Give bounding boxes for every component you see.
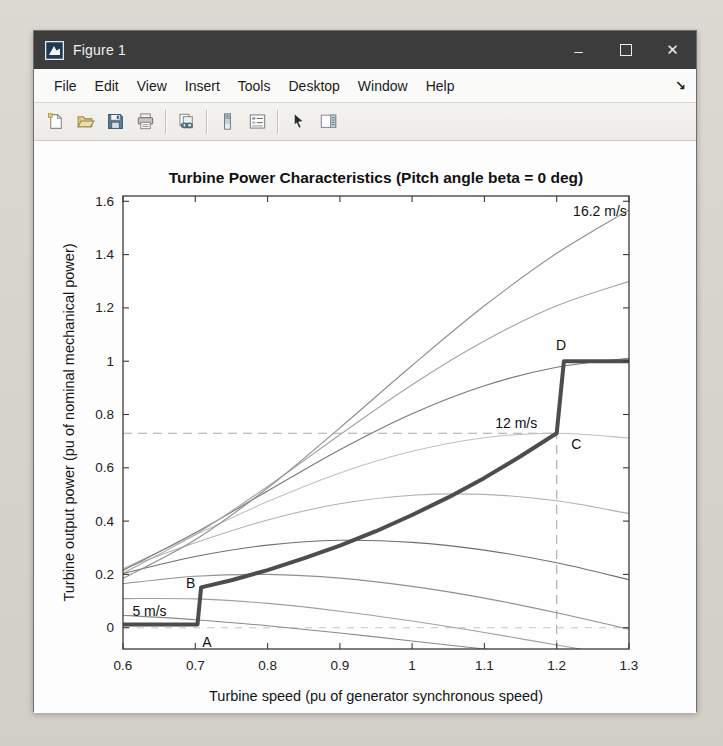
plot-annotation: D (556, 337, 566, 353)
menu-edit[interactable]: Edit (87, 74, 127, 98)
insert-colorbar-icon (218, 112, 237, 131)
x-tick-label: 0.6 (114, 658, 133, 673)
x-tick-label: 0.8 (258, 658, 277, 673)
y-tick-label: 1 (106, 354, 114, 369)
y-tick-label: 0 (106, 620, 114, 635)
y-tick-label: 0.6 (95, 460, 114, 475)
maximize-button[interactable] (602, 31, 649, 69)
toolbar-separator (277, 110, 278, 134)
close-icon: ✕ (666, 41, 679, 59)
toolbar (34, 103, 696, 141)
x-tick-label: 1.3 (620, 658, 639, 673)
print-figure-button[interactable] (131, 108, 159, 136)
titlebar[interactable]: Figure 1 – ✕ (34, 31, 696, 69)
y-tick-label: 0.4 (95, 514, 114, 529)
plot-annotation: C (571, 436, 581, 452)
x-tick-label: 1.1 (475, 658, 494, 673)
x-tick-label: 1 (408, 658, 416, 673)
menu-tools[interactable]: Tools (230, 74, 279, 98)
plot-annotation: A (202, 634, 212, 650)
menu-help[interactable]: Help (418, 74, 463, 98)
y-tick-label: 0.8 (95, 407, 114, 422)
y-tick-label: 1.2 (95, 300, 114, 315)
dock-figure-icon[interactable]: ↘ (675, 78, 686, 93)
plot-annotation: B (186, 575, 195, 591)
plot-title: Turbine Power Characteristics (Pitch ang… (169, 169, 583, 186)
book-page-background: { "window": { "title": "Figure 1", "cont… (0, 0, 723, 746)
close-button[interactable]: ✕ (649, 31, 696, 69)
x-tick-label: 0.7 (186, 658, 205, 673)
show-plot-tools-button[interactable] (314, 108, 342, 136)
save-figure-icon (106, 112, 125, 131)
plot-annotation: 16.2 m/s (573, 203, 627, 219)
edit-plot-icon (289, 112, 308, 131)
x-axis-label: Turbine speed (pu of generator synchrono… (209, 688, 543, 704)
x-tick-label: 0.9 (331, 658, 350, 673)
toolbar-separator (206, 110, 207, 134)
window-controls: – ✕ (555, 31, 696, 69)
y-tick-label: 0.2 (95, 567, 114, 582)
figure-window: Figure 1 – ✕ File Edit View Insert Tools… (33, 30, 697, 712)
menu-insert[interactable]: Insert (177, 74, 228, 98)
matlab-figure-icon (45, 41, 64, 60)
print-figure-icon (136, 112, 155, 131)
toolbar-separator (165, 110, 166, 134)
menu-file[interactable]: File (46, 74, 85, 98)
plot-area[interactable] (123, 196, 629, 649)
maximize-square-icon (620, 44, 632, 56)
new-figure-icon (46, 112, 65, 131)
menu-window[interactable]: Window (350, 74, 416, 98)
insert-legend-button[interactable] (243, 108, 271, 136)
save-figure-button[interactable] (101, 108, 129, 136)
new-figure-button[interactable] (41, 108, 69, 136)
x-tick-label: 1.2 (547, 658, 566, 673)
window-title: Figure 1 (73, 42, 126, 58)
insert-legend-icon (248, 112, 267, 131)
y-tick-label: 1.4 (95, 247, 114, 262)
minimize-button[interactable]: – (555, 31, 602, 69)
insert-colorbar-button[interactable] (213, 108, 241, 136)
menubar: File Edit View Insert Tools Desktop Wind… (34, 69, 696, 103)
plot-svg[interactable]: 0.60.70.80.911.11.21.300.20.40.60.811.21… (34, 141, 696, 713)
plot-annotation: 5 m/s (132, 603, 166, 619)
y-axis-label: Turbine output power (pu of nominal mech… (61, 243, 77, 601)
link-plot-button[interactable] (172, 108, 200, 136)
show-plot-tools-icon (319, 112, 338, 131)
y-tick-label: 1.6 (95, 194, 114, 209)
menu-desktop[interactable]: Desktop (280, 74, 347, 98)
open-file-button[interactable] (71, 108, 99, 136)
menu-view[interactable]: View (129, 74, 175, 98)
link-plot-icon (177, 112, 196, 131)
open-file-icon (76, 112, 95, 131)
figure-canvas[interactable]: 0.60.70.80.911.11.21.300.20.40.60.811.21… (34, 141, 696, 713)
edit-plot-button[interactable] (284, 108, 312, 136)
plot-annotation: 12 m/s (495, 415, 537, 431)
